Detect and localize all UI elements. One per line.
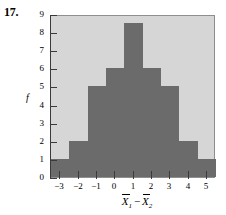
x-tick-mark: [114, 171, 115, 179]
x-tick-mark: [151, 171, 152, 179]
problem-number-label: 17.: [4, 5, 18, 20]
y-tick-label: 6: [24, 64, 44, 73]
x-tick-label: 5: [196, 181, 216, 191]
x-tick-mark: [96, 171, 97, 179]
x-subscript-1: 1: [128, 202, 132, 210]
x-subscript-2: 2: [149, 202, 153, 210]
histogram-bar: [106, 68, 124, 177]
x-tick-label: −1: [86, 181, 106, 191]
y-tick-mark: [50, 142, 57, 143]
y-tick-label: 5: [24, 82, 44, 91]
histogram-bar: [51, 159, 69, 177]
histogram-bar: [161, 86, 179, 177]
x-tick-label: 2: [141, 181, 161, 191]
y-tick-mark: [50, 69, 57, 70]
y-tick-label: 3: [24, 119, 44, 128]
y-tick-mark: [50, 33, 57, 34]
y-tick-label: 1: [24, 155, 44, 164]
x-tick-label: 0: [104, 181, 124, 191]
x-tick-mark: [206, 171, 207, 179]
x-tick-mark: [133, 171, 134, 179]
x-tick-label: 3: [159, 181, 179, 191]
x-axis-title: X1−X2: [0, 195, 226, 210]
histogram-figure: 17. f 0123456789 −3−2−1012345 X1−X2: [0, 0, 226, 215]
x-tick-label: 1: [123, 181, 143, 191]
y-tick-mark: [50, 178, 57, 179]
y-tick-label: 9: [24, 10, 44, 19]
y-tick-label: 8: [24, 28, 44, 37]
y-tick-mark: [50, 106, 57, 107]
x-tick-label: 4: [178, 181, 198, 191]
histogram-bar: [124, 23, 142, 177]
y-tick-label: 7: [24, 46, 44, 55]
x-tick-mark: [169, 171, 170, 179]
histogram-bar: [88, 86, 106, 177]
y-tick-label: 2: [24, 137, 44, 146]
y-tick-label: 0: [24, 173, 44, 182]
x-tick-label: −2: [68, 181, 88, 191]
y-tick-mark: [50, 160, 57, 161]
y-tick-mark: [50, 15, 57, 16]
y-tick-mark: [50, 51, 57, 52]
x-tick-mark: [188, 171, 189, 179]
plot-panel: [50, 15, 215, 178]
x-bar-symbol-1: X1: [122, 195, 132, 210]
x-tick-label: −3: [49, 181, 69, 191]
y-tick-mark: [50, 124, 57, 125]
x-tick-mark: [59, 171, 60, 179]
y-axis-line: [50, 15, 51, 178]
x-tick-mark: [78, 171, 79, 179]
histogram-bar: [143, 68, 161, 177]
minus-symbol: −: [132, 195, 142, 207]
x-bar-symbol-2: X2: [142, 195, 152, 210]
y-tick-mark: [50, 87, 57, 88]
histogram-bars: [51, 16, 214, 177]
y-tick-label: 4: [24, 101, 44, 110]
